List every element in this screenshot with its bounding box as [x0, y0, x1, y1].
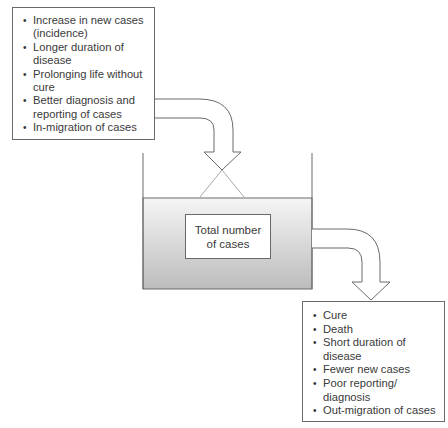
total-cases-box: Total number of cases [185, 214, 271, 259]
inflow-factors-box: Increase in new cases (incidence) Longer… [12, 7, 155, 140]
outflow-factors-list: Cure Death Short duration of disease Few… [311, 309, 440, 418]
total-cases-label: Total number of cases [194, 223, 262, 251]
outflow-item: Poor reporting/ diagnosis [311, 377, 440, 404]
outflow-item: Cure [311, 309, 440, 323]
inflow-item: Longer duration of disease [21, 41, 148, 68]
inflow-item: In-migration of cases [21, 121, 148, 134]
outflow-factors-box: Cure Death Short duration of disease Few… [302, 301, 445, 422]
outflow-item: Fewer new cases [311, 363, 440, 377]
inflow-factors-list: Increase in new cases (incidence) Longer… [21, 14, 148, 135]
inflow-item: Increase in new cases (incidence) [21, 14, 148, 41]
inflow-arrow [155, 99, 241, 170]
spray-line-left [200, 170, 222, 197]
outflow-item: Death [311, 323, 440, 337]
spray-line-right [222, 170, 244, 197]
inflow-item: Better diagnosis and reporting of cases [21, 94, 148, 121]
outflow-arrow [312, 229, 390, 300]
outflow-item: Out-migration of cases [311, 404, 440, 418]
outflow-item: Short duration of disease [311, 336, 440, 363]
inflow-item: Prolonging life without cure [21, 68, 148, 95]
